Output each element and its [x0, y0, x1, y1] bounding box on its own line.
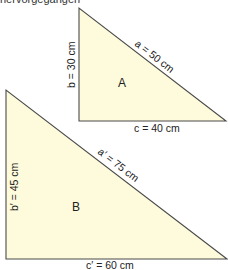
triangle-b-side-c-label: c′ = 60 cm	[86, 259, 134, 270]
triangle-a: A b = 30 cm a = 50 cm c = 40 cm	[65, 8, 226, 134]
triangle-a-side-b-label: b = 30 cm	[65, 41, 77, 88]
triangle-a-side-c-label: c = 40 cm	[134, 122, 180, 134]
triangle-b-name: B	[72, 200, 80, 214]
triangle-b-side-b-label: b′ = 45 cm	[8, 162, 20, 211]
triangle-a-name: A	[118, 76, 126, 90]
similar-triangles-diagram: A b = 30 cm a = 50 cm c = 40 cm B b′ = 4…	[0, 0, 228, 270]
triangle-a-shape	[79, 8, 226, 121]
